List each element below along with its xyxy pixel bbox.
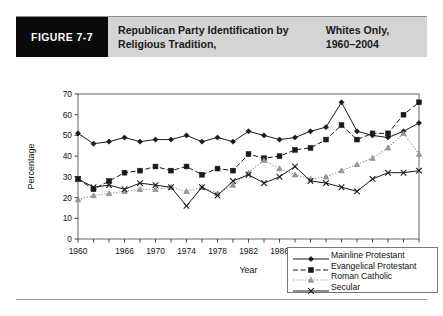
legend-item: Mainline Protestant [291, 250, 434, 261]
y-axis-tick-label: 30 [63, 172, 73, 182]
chart-legend: Mainline ProtestantEvangelical Protestan… [287, 247, 438, 293]
figure-header: FIGURE 7-7 Republican Party Identificati… [16, 16, 427, 57]
x-axis-tick-label: 1966 [115, 246, 134, 256]
series-data-point [200, 172, 205, 177]
series-data-point [324, 137, 329, 142]
series-data-point [277, 154, 282, 159]
legend-cross-icon [291, 282, 331, 292]
legend-item: Roman Catholic [291, 271, 434, 282]
series-data-point [417, 100, 422, 105]
y-axis-tick-label: 40 [63, 151, 73, 161]
plot-frame [78, 94, 419, 239]
x-axis-tick-label: 1970 [146, 246, 165, 256]
series-data-point [293, 148, 298, 153]
legend-triangle-icon [291, 271, 331, 281]
series-data-point [122, 170, 127, 175]
figure-container: FIGURE 7-7 Republican Party Identificati… [0, 0, 443, 316]
y-axis-tick-label: 50 [63, 130, 73, 140]
legend-item-label: Roman Catholic [331, 271, 392, 281]
legend-diamond-icon [291, 250, 331, 260]
x-axis-tick-label: 1982 [239, 246, 258, 256]
y-axis-tick-label: 0 [67, 234, 72, 244]
figure-bottom-rule [16, 299, 427, 300]
series-data-point [355, 137, 360, 142]
line-chart-svg: 0102030405060701960196619701974197819821… [16, 62, 427, 274]
series-data-point [370, 131, 375, 136]
figure-title-line-2: Whites Only, 1960–2004 [326, 23, 417, 51]
figure-title: Republican Party Identification by Relig… [108, 17, 427, 57]
figure-title-line-1: Republican Party Identification by Relig… [118, 23, 326, 51]
y-axis-title: Percentage [26, 143, 36, 189]
legend-item: Secular [291, 282, 434, 293]
figure-number-tag: FIGURE 7-7 [16, 17, 108, 57]
series-data-point [246, 152, 251, 157]
y-axis-tick-label: 70 [63, 89, 73, 99]
x-axis-tick-label: 1974 [177, 246, 196, 256]
y-axis-tick-label: 10 [63, 213, 73, 223]
series-data-point [107, 179, 112, 184]
series-data-point [215, 166, 220, 171]
legend-item-label: Mainline Protestant [331, 250, 405, 260]
series-data-point [339, 123, 344, 128]
series-data-point [401, 112, 406, 117]
series-data-point [138, 168, 143, 173]
x-axis-tick-label: 1978 [208, 246, 227, 256]
y-axis-tick-label: 20 [63, 193, 73, 203]
series-data-point [308, 145, 313, 150]
series-data-point [153, 164, 158, 169]
y-axis-tick-label: 60 [63, 110, 73, 120]
legend-item-label: Secular [331, 282, 360, 292]
x-axis-tick-label: 1960 [69, 246, 88, 256]
legend-item: Evangelical Protestant [291, 261, 434, 272]
legend-square-icon [291, 261, 331, 271]
series-data-point [184, 164, 189, 169]
legend-item-label: Evangelical Protestant [331, 261, 417, 271]
series-data-point [231, 168, 236, 173]
chart-area: 0102030405060701960196619701974197819821… [16, 62, 427, 274]
x-axis-title: Year [239, 265, 257, 274]
series-data-point [169, 168, 174, 173]
series-data-point [386, 131, 391, 136]
